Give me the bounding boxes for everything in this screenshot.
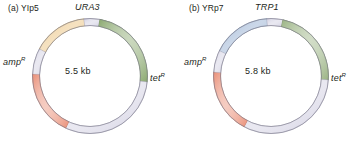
gene-label-ampr: ampR (184, 57, 207, 67)
gene-label-trp1: TRP1 (255, 2, 279, 12)
ring-inner-outline (221, 26, 322, 127)
plasmid-segment-sheen (66, 81, 147, 133)
panel-yip5: (a) YIp5 URA3 ampR tetR 5.5 kb (0, 0, 181, 149)
plasmid-segment-sheen (39, 19, 84, 52)
plasmid-figure: (a) YIp5 URA3 ampR tetR 5.5 kb (b) YRp7 … (0, 0, 362, 149)
gene-label-ura3: URA3 (75, 2, 100, 12)
plasmid-segment-sheen (84, 19, 100, 27)
gene-label-tetr: tetR (150, 73, 165, 83)
gene-label-tetr: tetR (331, 73, 346, 83)
plasmid-size-label-a: 5.5 kb (65, 66, 91, 76)
gene-label-ampr: ampR (3, 57, 26, 67)
plasmid-size-label-b: 5.8 kb (245, 66, 271, 76)
plasmid-segment-sheen (219, 19, 267, 54)
plasmid-segment-sheen (244, 80, 328, 134)
panel-yrp7: (b) YRp7 TRP1 ampR tetR 5.8 kb (181, 0, 362, 149)
ring-inner-outline (40, 26, 141, 127)
